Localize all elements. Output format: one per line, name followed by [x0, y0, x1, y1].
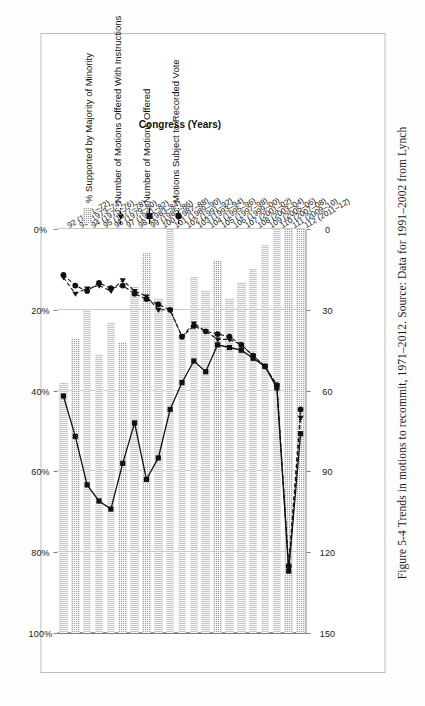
dashed-line-triangle-marker-icon	[111, 208, 121, 224]
series-line	[63, 275, 300, 566]
series-marker	[96, 498, 101, 503]
series-marker	[179, 380, 184, 385]
legend-label: Motions Subject to Recorded Vote	[169, 59, 180, 203]
series-marker	[143, 296, 149, 302]
chart-frame: 0306090120150 0%20%40%60%80%100% 92 (197…	[40, 33, 385, 673]
count-axis-tick-label: 120	[313, 548, 341, 558]
series-marker	[119, 283, 125, 289]
percent-axis-tick-label: 0%	[24, 225, 56, 235]
count-axis-tick-label: 30	[313, 306, 341, 316]
series-marker	[214, 342, 219, 347]
legend-label: % Supported by Majority of Minority	[82, 53, 93, 203]
series-marker	[285, 563, 291, 569]
percent-axis-tick-label: 80%	[24, 548, 56, 558]
series-marker	[72, 292, 78, 297]
count-axis-tick-label: 0	[313, 225, 341, 235]
series-marker	[131, 420, 136, 425]
series-marker	[214, 338, 220, 343]
axis-tick	[306, 391, 310, 392]
plot-area	[57, 230, 306, 634]
legend-item: Number of Motions Offered With Instructi…	[110, 42, 122, 224]
percent-axis-tick-label: 20%	[24, 306, 56, 316]
series-marker	[108, 507, 113, 512]
line-series-layer	[57, 229, 306, 633]
count-axis-tick-label: 60	[313, 387, 341, 397]
percent-axis-tick-label: 40%	[24, 387, 56, 397]
series-marker	[191, 358, 196, 363]
series-marker	[84, 288, 90, 294]
legend-item: Motions Subject to Recorded Vote	[168, 42, 180, 224]
axis-tick	[306, 552, 310, 553]
axis-tick	[306, 471, 310, 472]
legend-item: % Supported by Majority of Minority	[81, 42, 93, 224]
series-marker	[120, 461, 125, 466]
legend-label: Number of Motions Offered	[140, 89, 151, 203]
series-marker	[167, 307, 173, 313]
figure-page: 0306090120150 0%20%40%60%80%100% 92 (197…	[0, 0, 425, 706]
series-marker	[119, 278, 125, 283]
series-marker	[226, 334, 232, 340]
figure-caption: Figure 5-4 Trends in motions to recommit…	[385, 0, 419, 706]
percent-axis-tick-label: 60%	[24, 467, 56, 477]
series-marker	[143, 477, 148, 482]
figure-caption-text: Figure 5-4 Trends in motions to recommit…	[396, 127, 408, 580]
series-marker	[72, 283, 78, 289]
axis-tick	[306, 633, 310, 634]
series-line	[63, 345, 300, 571]
series-marker	[179, 334, 185, 340]
solid-line-square-marker-icon	[140, 208, 150, 224]
legend-label: Number of Motions Offered With Instructi…	[111, 16, 122, 203]
legend-item: Number of Motions Offered	[139, 42, 151, 224]
series-marker	[155, 302, 161, 308]
dashed-line-circle-marker-icon	[169, 208, 179, 224]
series-marker	[155, 455, 160, 460]
series-marker	[72, 434, 77, 439]
series-marker	[60, 272, 66, 278]
series-marker	[203, 369, 208, 374]
percent-axis-tick-label: 100%	[24, 629, 56, 639]
count-axis-tick-label: 90	[313, 467, 341, 477]
series-marker	[84, 482, 89, 487]
series-line	[63, 278, 300, 569]
chart-legend: % Supported by Majority of MinorityNumbe…	[81, 42, 197, 224]
series-marker	[155, 308, 161, 313]
series-marker	[214, 331, 220, 337]
axis-tick	[306, 310, 310, 311]
chart-rotor: 0306090120150 0%20%40%60%80%100% 92 (197…	[40, 33, 385, 673]
series-marker	[167, 407, 172, 412]
count-axis-tick-label: 150	[313, 629, 341, 639]
series-marker	[226, 345, 231, 350]
hatched-bar-swatch-icon	[83, 208, 91, 224]
series-marker	[238, 348, 243, 353]
series-marker	[60, 393, 65, 398]
series-marker	[297, 407, 303, 413]
plot-outer	[57, 230, 306, 634]
